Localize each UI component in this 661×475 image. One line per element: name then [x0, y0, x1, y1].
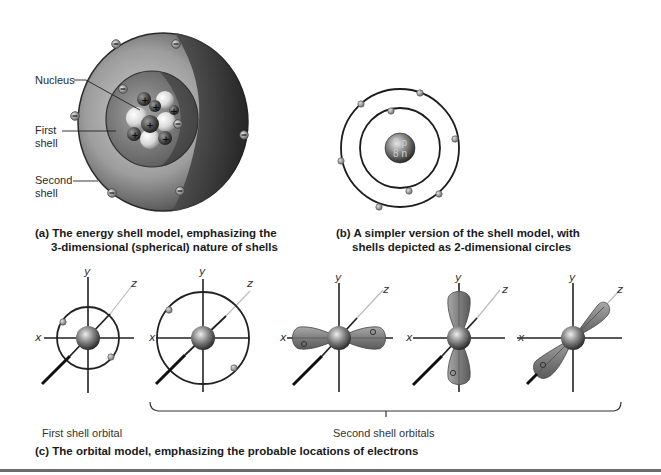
simple-shell-model: 8 p 8 n — [338, 89, 459, 210]
label-nucleus: Nucleus — [35, 74, 75, 87]
svg-text:+: + — [170, 106, 178, 116]
axis-z-5: z — [617, 283, 623, 296]
axis-y-3: y — [335, 271, 342, 284]
label-first-shell-line2: shell — [35, 137, 58, 150]
label-first-shell: First shell — [35, 124, 58, 150]
caption-b-line2: shells depicted as 2-dimensional circles — [336, 240, 580, 254]
label-first-shell-orbital: First shell orbital — [42, 427, 122, 439]
axis-x-1: x — [35, 331, 42, 344]
caption-a-letter: (a) — [35, 227, 49, 239]
caption-a-line1: The energy shell model, emphasizing the — [52, 227, 276, 239]
caption-c: (c) The orbital model, emphasizing the p… — [35, 444, 418, 458]
label-second-shell-orbitals: Second shell orbitals — [333, 427, 435, 439]
axis-y-2: y — [199, 265, 206, 278]
caption-b-line1: A simpler version of the shell model, wi… — [353, 227, 579, 239]
axis-z-2: z — [247, 277, 253, 290]
orbital-2py — [413, 283, 505, 392]
orbital-1s — [42, 277, 134, 393]
label-second-shell: Second shell — [35, 174, 72, 200]
svg-text:+: + — [141, 95, 149, 105]
svg-text:+: + — [162, 134, 170, 144]
label-second-shell-line1: Second — [35, 174, 72, 187]
orbital-2pz — [517, 283, 622, 392]
caption-b-letter: (b) — [336, 227, 351, 239]
second-shell-bracket — [150, 402, 621, 411]
caption-c-text: The orbital model, emphasizing the proba… — [52, 445, 418, 457]
svg-text:+: + — [131, 130, 139, 140]
caption-b: (b) A simpler version of the shell model… — [336, 226, 580, 254]
axis-z-1: z — [131, 277, 137, 290]
axis-y-1: y — [84, 265, 91, 278]
axis-z-3: z — [383, 283, 389, 296]
label-first-shell-line1: First — [35, 124, 58, 137]
axis-y-4: y — [455, 271, 462, 284]
axis-y-5: y — [569, 271, 576, 284]
caption-a: (a) The energy shell model, emphasizing … — [35, 226, 278, 254]
svg-text:+: + — [146, 120, 154, 130]
label-second-shell-line2: shell — [35, 187, 72, 200]
svg-text:+: + — [152, 102, 160, 112]
orbital-2px — [287, 283, 393, 392]
axis-x-3: x — [280, 331, 287, 344]
bottom-rule — [0, 469, 661, 472]
caption-a-line2: 3-dimensional (spherical) nature of shel… — [35, 240, 278, 254]
axis-z-4: z — [502, 283, 508, 296]
orbital-2s — [156, 279, 250, 392]
svg-text:8 n: 8 n — [393, 148, 407, 159]
energy-shell-model: + + + + + + — [62, 33, 248, 211]
caption-c-letter: (c) — [35, 445, 49, 457]
axis-x-2: x — [149, 331, 156, 344]
axis-x-5: x — [518, 331, 525, 344]
svg-text:8 p: 8 p — [393, 137, 407, 148]
axis-x-4: x — [406, 331, 413, 344]
